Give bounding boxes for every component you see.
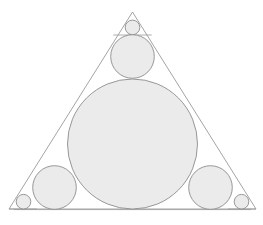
bottom-right-medium-circle xyxy=(189,166,233,210)
apex-small-circle xyxy=(125,20,140,35)
bottom-left-small-circle xyxy=(16,194,31,209)
incircle xyxy=(68,79,198,209)
bottom-left-medium-circle xyxy=(33,166,77,210)
bottom-right-small-circle xyxy=(234,194,249,209)
geometry-figure-root xyxy=(0,0,263,225)
geometry-diagram xyxy=(0,0,263,225)
top-medium-circle xyxy=(111,35,155,79)
